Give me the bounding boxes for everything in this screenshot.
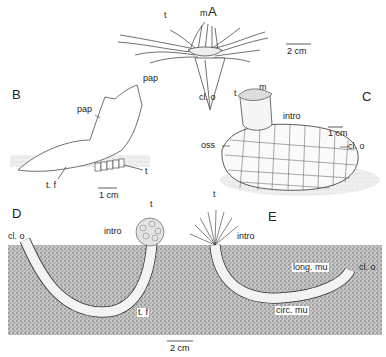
annotation-b-t: t [145, 167, 148, 176]
panel-label-c: C [362, 90, 371, 103]
panel-label-b: B [12, 88, 21, 101]
illustration [0, 0, 386, 357]
scale-label-c: 1 cm [328, 129, 348, 138]
panel-label-d: D [12, 207, 21, 220]
annotation-d-t-f: t. f [137, 308, 149, 317]
annotation-c-cl-o: cl. o [348, 142, 365, 151]
annotation-a-cl-o: cl. o [199, 93, 216, 102]
panel-label-e: E [268, 210, 277, 223]
annotation-c-intro: intro [283, 112, 301, 121]
panel-b-drawing [10, 85, 150, 188]
annotation-d-cl-o: cl. o [8, 232, 25, 241]
annotation-a-pap: pap [143, 74, 158, 83]
figure: A B C D E t m pap cl. o 2 cm pap t t. f … [0, 0, 386, 357]
annotation-d-intro: intro [104, 227, 122, 236]
annotation-c-t: t [234, 89, 237, 98]
annotation-e-circ-mu: circ. mu [275, 306, 309, 315]
scale-label-b: 1 cm [99, 191, 119, 200]
annotation-e-long-mu: long. mu [292, 263, 329, 272]
annotation-c-m: m [259, 83, 267, 92]
scale-label-a: 2 cm [287, 47, 307, 56]
annotation-b-t-f: t. f [46, 181, 56, 190]
annotation-c-oss: oss [201, 141, 215, 150]
annotation-a-m: m [200, 9, 208, 18]
shared-scale-label: 2 cm [170, 344, 190, 353]
annotation-e-cl-o: cl. o [359, 263, 376, 272]
annotation-e-intro: intro [237, 232, 255, 241]
annotation-d-t: t [150, 200, 153, 209]
annotation-a-t: t [164, 11, 167, 20]
panel-label-a: A [208, 5, 217, 18]
annotation-b-pap: pap [77, 105, 92, 114]
annotation-e-t: t [213, 190, 216, 199]
